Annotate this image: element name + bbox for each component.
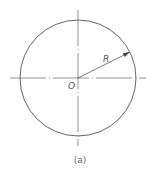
radius-label: R <box>103 54 109 64</box>
center-label: O <box>68 81 75 91</box>
figure-caption: (a) <box>0 155 160 165</box>
diagram-canvas: O R <box>0 0 160 181</box>
